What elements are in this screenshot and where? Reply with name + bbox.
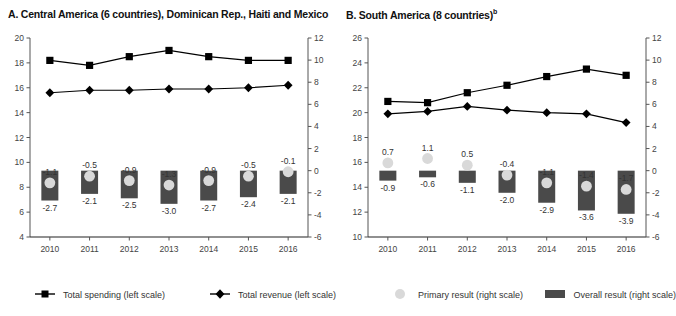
- diamond-marker: [622, 118, 631, 127]
- right-axis-tick-label: 8: [314, 77, 319, 87]
- primary-result-point: [462, 160, 473, 171]
- chart-svg: 101214161820222426-6-4-20246810122010201…: [338, 0, 676, 285]
- x-axis-year-label: 2015: [577, 244, 596, 254]
- primary-result-value-label: -0.1: [281, 156, 296, 166]
- right-axis-tick-label: -2: [652, 188, 660, 198]
- chart-panel-a: A. Central America (6 countries), Domini…: [0, 0, 338, 285]
- legend-label: Total spending (left scale): [63, 291, 165, 300]
- diamond-marker: [85, 86, 94, 95]
- primary-result-point: [502, 170, 513, 181]
- legend-label: Primary result (right scale): [418, 291, 523, 300]
- diamond-marker: [542, 108, 551, 117]
- left-axis-tick-label: 24: [353, 58, 363, 68]
- legend-item[interactable]: Total spending (left scale): [34, 288, 209, 302]
- primary-result-point: [422, 153, 433, 164]
- square-marker: [86, 62, 93, 69]
- right-axis-tick-label: 12: [314, 33, 324, 43]
- x-axis-year-label: 2011: [418, 244, 437, 254]
- right-axis-tick-label: 10: [652, 55, 662, 65]
- primary-result-value-label: -1.3: [162, 169, 177, 179]
- total-spending-series: [384, 65, 629, 106]
- primary-result-point: [243, 171, 254, 182]
- square-marker: [424, 99, 431, 106]
- primary-result-point: [283, 166, 294, 177]
- left-axis-tick-label: 12: [353, 207, 363, 217]
- overall-result-bar: [459, 171, 476, 183]
- x-axis-year-label: 2011: [80, 244, 99, 254]
- left-axis-tick-label: 18: [353, 133, 363, 143]
- x-axis-year-label: 2013: [160, 244, 179, 254]
- overall-result-value-label: -2.1: [281, 196, 296, 206]
- right-axis-tick-label: 6: [652, 99, 657, 109]
- square-marker: [285, 57, 292, 64]
- primary-result-points: -1.1-0.5-0.9-1.3-0.9-0.5-0.1: [43, 156, 296, 191]
- primary-result-value-label: -1.1: [539, 167, 554, 177]
- diamond-marker: [383, 109, 392, 118]
- left-axis-tick-label: 10: [353, 232, 363, 242]
- x-axis-year-label: 2015: [239, 244, 258, 254]
- overall-result-value-label: -0.9: [381, 183, 396, 193]
- right-axis-tick-label: -2: [314, 188, 322, 198]
- x-axis-year-label: 2010: [378, 244, 397, 254]
- light-circle-marker: [389, 288, 411, 302]
- x-axis-year-label: 2014: [199, 244, 218, 254]
- x-axis-year-label: 2014: [537, 244, 556, 254]
- legend-item[interactable]: Overall result (right scale): [544, 288, 676, 302]
- right-axis-tick-label: 0: [652, 166, 657, 176]
- overall-result-value-label: -2.7: [201, 203, 216, 213]
- square-marker: [503, 82, 510, 89]
- legend-item[interactable]: Total revenue (left scale): [209, 288, 389, 302]
- diamond-marker: [423, 107, 432, 116]
- overall-result-value-label: -1.1: [460, 185, 475, 195]
- left-axis-tick-label: 8: [19, 182, 24, 192]
- diamond-marker: [582, 109, 591, 118]
- left-axis-tick-label: 20: [353, 108, 363, 118]
- right-axis-tick-label: 2: [652, 144, 657, 154]
- square-line-marker: [34, 288, 56, 302]
- chart-svg: 468101214161820-6-4-20246810122010201120…: [0, 0, 338, 285]
- overall-result-value-label: -2.5: [122, 200, 137, 210]
- overall-result-value-label: -0.6: [420, 179, 435, 189]
- figure-root: A. Central America (6 countries), Domini…: [0, 0, 676, 316]
- square-marker: [543, 73, 550, 80]
- legend-item[interactable]: Primary result (right scale): [389, 288, 545, 302]
- right-axis-tick-label: -6: [652, 232, 660, 242]
- total-revenue-series: [45, 81, 292, 97]
- primary-result-value-label: 0.7: [382, 147, 394, 157]
- diamond-marker: [204, 85, 213, 94]
- diamond-marker: [125, 86, 134, 95]
- right-axis-tick-label: -4: [314, 210, 322, 220]
- right-axis-tick-label: 10: [314, 55, 324, 65]
- overall-result-value-label: -2.9: [539, 205, 554, 215]
- square-marker: [583, 65, 590, 72]
- right-axis-tick-label: 2: [314, 144, 319, 154]
- primary-result-point: [203, 175, 214, 186]
- primary-result-value-label: -0.5: [241, 160, 256, 170]
- legend-label: Overall result (right scale): [573, 291, 676, 300]
- primary-result-point: [621, 184, 632, 195]
- right-axis-tick-label: 4: [652, 121, 657, 131]
- right-axis-tick-label: 12: [652, 33, 662, 43]
- diamond-marker: [244, 83, 253, 92]
- overall-result-value-label: -2.1: [82, 196, 97, 206]
- x-axis-year-label: 2010: [40, 244, 59, 254]
- diamond-marker: [284, 81, 293, 90]
- dark-bar-marker: [544, 288, 566, 302]
- left-axis-tick-label: 6: [19, 207, 24, 217]
- primary-result-point: [541, 177, 552, 188]
- primary-result-value-label: -1.4: [579, 170, 594, 180]
- left-axis-tick-label: 12: [15, 133, 25, 143]
- diamond-marker: [463, 102, 472, 111]
- overall-result-value-label: -3.6: [579, 212, 594, 222]
- x-axis-year-label: 2016: [617, 244, 636, 254]
- square-marker: [464, 89, 471, 96]
- right-axis-tick-label: 6: [314, 99, 319, 109]
- panel-a-plot-area: 468101214161820-6-4-20246810122010201120…: [0, 0, 338, 285]
- primary-result-value-label: -1.1: [43, 167, 58, 177]
- chart-panel-b: B. South America (8 countries)b 10121416…: [338, 0, 676, 285]
- x-axis-year-label: 2012: [120, 244, 139, 254]
- chart-legend: Total spending (left scale)Total revenue…: [0, 288, 676, 316]
- square-marker: [126, 53, 133, 60]
- primary-result-point: [581, 181, 592, 192]
- square-marker: [46, 57, 53, 64]
